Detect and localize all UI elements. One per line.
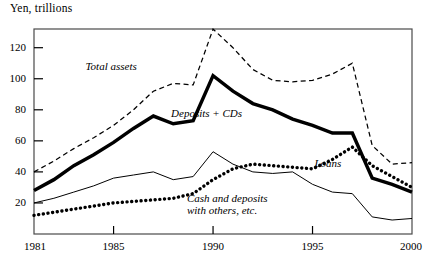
chart-container: Yen, trillions 20406080100120 1981198519… <box>0 0 433 271</box>
y-tick-label: 40 <box>0 165 26 177</box>
y-tick-label: 80 <box>0 103 26 115</box>
series-label-cash-line-2: with others, etc. <box>187 204 257 216</box>
x-tick-label: 2000 <box>388 240 433 252</box>
series-label-deposits-cds: Deposits + CDs <box>171 107 242 120</box>
series-label-cash-and-deposits: Cash and deposits with others, etc. <box>187 192 268 217</box>
y-tick-label: 100 <box>0 72 26 84</box>
y-tick-label: 120 <box>0 41 26 53</box>
chart-plot-area <box>0 0 433 271</box>
x-tick-label: 1981 <box>12 240 58 252</box>
series-label-total-assets: Total assets <box>86 60 137 73</box>
series-label-loans: Loans <box>314 157 341 170</box>
x-tick-label: 1985 <box>91 240 137 252</box>
y-tick-label: 20 <box>0 196 26 208</box>
y-tick-label: 60 <box>0 134 26 146</box>
x-tick-label: 1995 <box>290 240 336 252</box>
x-tick-label: 1990 <box>190 240 236 252</box>
series-label-cash-line-1: Cash and deposits <box>187 192 268 204</box>
